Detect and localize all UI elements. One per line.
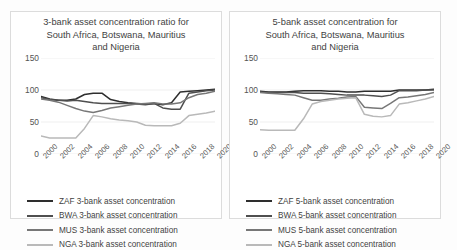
y-tick-label: 50 — [234, 117, 258, 127]
chart-title-line: and Nigeria — [238, 41, 432, 54]
chart-title-line: and Nigeria — [19, 41, 213, 54]
y-axis-3bank: 150 100 50 0 — [15, 58, 39, 154]
chart-title-3bank: 3-bank asset concentration ratio for Sou… — [19, 16, 213, 54]
y-tick-label: 100 — [234, 85, 258, 95]
x-axis-5bank: 2000200220042006200820102012201420162018… — [260, 154, 434, 188]
legend-swatch-icon — [246, 244, 272, 246]
legend-swatch-icon — [27, 215, 53, 217]
legend-label: MUS 3-bank asset concentration — [59, 226, 178, 235]
line-chart-svg — [260, 58, 434, 154]
y-tick-label: 150 — [234, 53, 258, 63]
chart-title-line: South Africa, Botswana, Mauritius — [238, 29, 432, 42]
y-tick-label: 100 — [15, 85, 39, 95]
legend-label: NGA 3-bank asset concentration — [59, 240, 177, 249]
legend-item-bwa[interactable]: BWA 3-bank asset concentration — [27, 209, 213, 224]
chart-title-5bank: 5-bank asset concentration for South Afr… — [238, 16, 432, 54]
legend-item-mus[interactable]: MUS 3-bank asset concentration — [27, 223, 213, 238]
legend-3bank: ZAF 3-bank asset concentration BWA 3-ban… — [27, 194, 213, 250]
legend-item-nga[interactable]: NGA 5-bank asset concentration — [246, 238, 432, 250]
y-tick-label: 50 — [15, 117, 39, 127]
chart-panel-3bank: 3-bank asset concentration ratio for Sou… — [10, 11, 222, 219]
y-tick-label: 0 — [234, 149, 258, 159]
plot-area-5bank: 150 100 50 0 — [230, 58, 440, 154]
chart-title-line: 5-bank asset concentration for — [238, 16, 432, 29]
y-tick-label: 0 — [15, 149, 39, 159]
legend-swatch-icon — [246, 215, 272, 217]
legend-swatch-icon — [27, 200, 53, 202]
legend-item-nga[interactable]: NGA 3-bank asset concentration — [27, 238, 213, 250]
chart-title-line: 3-bank asset concentration ratio for — [19, 16, 213, 29]
figure-canvas: 3-bank asset concentration ratio for Sou… — [0, 0, 457, 250]
series-line — [260, 96, 434, 130]
legend-5bank: ZAF 5-bank asset concentration BWA 5-ban… — [246, 194, 432, 250]
line-chart-svg — [41, 58, 215, 154]
legend-swatch-icon — [27, 229, 53, 231]
plot-lines-5bank — [260, 58, 434, 154]
legend-swatch-icon — [27, 244, 53, 246]
series-line — [260, 90, 434, 96]
plot-lines-3bank — [41, 58, 215, 154]
legend-swatch-icon — [246, 229, 272, 231]
plot-area-3bank: 150 100 50 0 — [11, 58, 221, 154]
legend-label: BWA 5-bank asset concentration — [278, 211, 396, 220]
legend-swatch-icon — [246, 200, 272, 202]
legend-item-zaf[interactable]: ZAF 3-bank asset concentration — [27, 194, 213, 209]
legend-label: MUS 5-bank asset concentration — [278, 226, 397, 235]
legend-label: BWA 3-bank asset concentration — [59, 211, 177, 220]
legend-label: NGA 5-bank asset concentration — [278, 240, 396, 249]
series-line — [41, 111, 215, 138]
legend-item-mus[interactable]: MUS 5-bank asset concentration — [246, 223, 432, 238]
legend-item-bwa[interactable]: BWA 5-bank asset concentration — [246, 209, 432, 224]
chart-panel-5bank: 5-bank asset concentration for South Afr… — [229, 11, 441, 219]
y-axis-5bank: 150 100 50 0 — [234, 58, 258, 154]
x-axis-3bank: 2000200220042006200820102012201420162018… — [41, 154, 215, 188]
legend-label: ZAF 5-bank asset concentration — [278, 197, 394, 206]
chart-title-line: South Africa, Botswana, Mauritius — [19, 29, 213, 42]
legend-item-zaf[interactable]: ZAF 5-bank asset concentration — [246, 194, 432, 209]
y-tick-label: 150 — [15, 53, 39, 63]
legend-label: ZAF 3-bank asset concentration — [59, 197, 175, 206]
